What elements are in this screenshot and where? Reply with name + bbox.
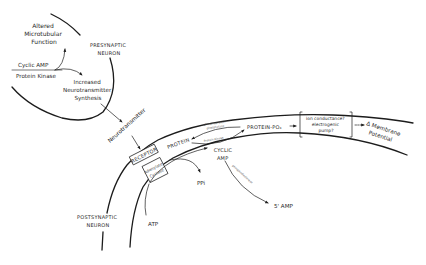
adenylate-cyclase-box: Adenylate Cyclase [141,157,168,183]
presynaptic-neuron: PRESYNAPTIC NEURON Altered Microtubular … [12,14,128,122]
arrow-to-receptor [132,136,140,149]
atp-line [145,184,149,215]
presynaptic-label: PRESYNAPTIC NEURON [90,42,128,56]
atp-label: ATP [148,221,159,227]
postsynaptic-membrane-inner [130,133,407,247]
ppi-label: PPi [197,180,206,186]
amp-post-label: AMP [217,155,228,161]
protein-label: PROTEIN [166,136,190,150]
arrow-to-microtubular [55,49,65,70]
protein-kinase-label: Protein Kinase [16,73,56,79]
cyclic-amp-label: Cyclic AMP [18,62,49,69]
postsynaptic-label: POSTSYNAPTIC NEURON [77,214,119,228]
svg-text:ion conductance? elect: ion conductance? electrogenic pump? [306,116,346,133]
increased-synthesis-label: Increased Neurotransmitter Synthesis [63,79,113,102]
cyclic-amp-post-label: CYCLIC [214,147,233,153]
phosphodiesterase-label: phosphodiesterase [231,164,254,185]
neurotransmitter-label: Neurotransmitter [107,107,147,144]
phosphatase-label: phosphoprotein phosphatase [203,119,227,130]
arrow-to-neurotransmitter [101,104,122,122]
protein-po4-label: PROTEIN-PO₄ [247,124,282,130]
altered-microtubular-label: Altered Microtubular Function [24,22,64,45]
membrane-potential-label: Δ Membrane Potential [363,120,403,145]
arrow-to-ppi [170,159,200,172]
camp-synapse-diagram: PRESYNAPTIC NEURON Altered Microtubular … [0,0,426,265]
postsynaptic-neuron: POSTSYNAPTIC NEURON RECEPTOR Adenylate C… [77,112,413,250]
arrow-phosphodiesterase [225,161,268,203]
five-amp-label: 5' AMP [274,203,294,209]
